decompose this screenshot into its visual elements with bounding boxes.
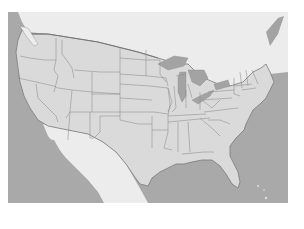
us-map-svg — [8, 12, 288, 203]
us-map — [8, 12, 288, 203]
